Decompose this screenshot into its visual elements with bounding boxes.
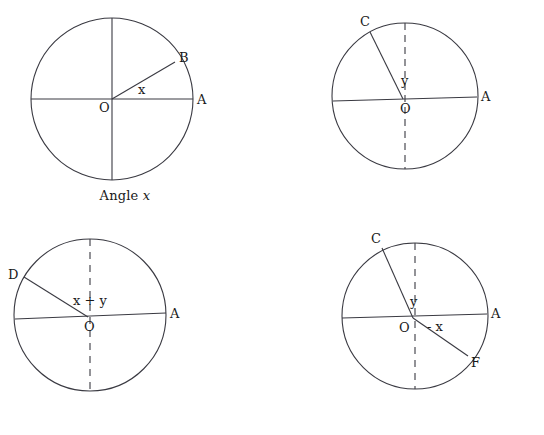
label-point-a: A (480, 89, 491, 104)
radius-oc (382, 248, 413, 318)
diagram-angle-x: O A B x Angle x (0, 0, 272, 215)
label-angle-x-plus-y: x + y (73, 293, 107, 308)
figure-page: O A B x Angle x C A O y Angle y (0, 0, 544, 435)
label-center-o: O (400, 101, 411, 116)
label-point-f: F (471, 355, 480, 370)
label-angle-y: y (400, 73, 409, 88)
caption-angle-x: Angle x (0, 188, 250, 203)
another-angle-svg: C A F O y - x (272, 215, 544, 435)
diagram-angle-y: C A O y Angle y (272, 0, 544, 215)
diagram-another-angle-x-plus-y: C A F O y - x Another angle of magnitude… (272, 215, 544, 435)
label-angle-x: x (138, 82, 146, 97)
label-point-c: C (360, 14, 370, 29)
circle-outline (14, 239, 166, 391)
label-angle-negative-x: - x (427, 319, 444, 334)
label-point-a: A (196, 92, 207, 107)
caption-prefix: Angle (100, 188, 143, 203)
label-point-c: C (371, 231, 381, 246)
label-center-o: O (399, 320, 410, 335)
label-point-a: A (169, 306, 180, 321)
label-point-a: A (490, 306, 501, 321)
label-point-b: B (179, 50, 189, 65)
diagram-angle-x-plus-y: D A O x + y Angle (x + y) (0, 215, 272, 435)
label-center-o: O (99, 100, 110, 115)
angle-x-plus-y-svg: D A O x + y (0, 215, 272, 435)
label-angle-y: y (409, 294, 418, 309)
radius-oc (370, 32, 403, 99)
angle-y-svg: C A O y (272, 0, 544, 215)
angle-x-svg: O A B x (0, 0, 272, 215)
caption-variable: x (143, 188, 151, 203)
label-center-o: O (84, 319, 95, 334)
label-point-d: D (8, 267, 18, 282)
